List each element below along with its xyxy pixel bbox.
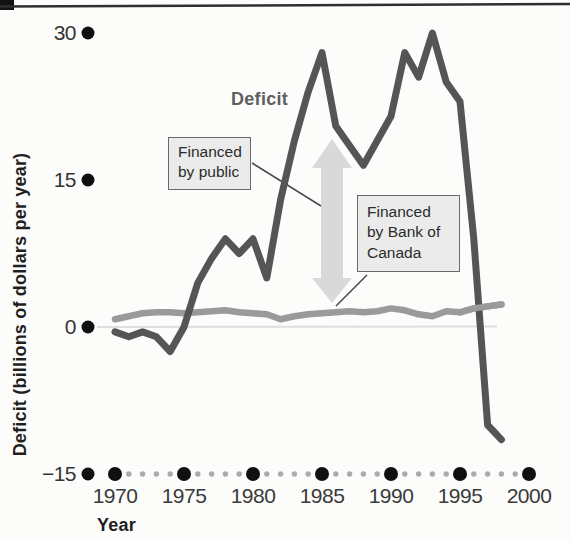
x-axis-minor-year-dot	[416, 471, 421, 476]
x-axis-minor-year-dot	[126, 471, 131, 476]
x-tick-label-1970: 1970	[83, 484, 147, 508]
public-financing-gap-arrow	[312, 139, 352, 303]
y-axis-title: Deficit (billions of dollars per year)	[10, 125, 31, 485]
x-axis-minor-year-dot	[347, 471, 352, 476]
y-tick-label-0: 0	[24, 313, 76, 340]
y-axis-tick-dot	[82, 468, 95, 481]
financed-by-boc-line1: Financed	[367, 202, 459, 222]
x-axis-minor-year-dot	[209, 471, 214, 476]
x-axis-minor-year-dot	[471, 471, 476, 476]
y-tick-label-neg15: −15	[24, 460, 76, 487]
y-tick-label-15: 15	[24, 166, 76, 193]
financed-by-public-line1: Financed	[178, 142, 250, 162]
x-axis-minor-year-dot	[306, 471, 311, 476]
x-axis-minor-year-dot	[485, 471, 490, 476]
x-axis-minor-year-dot	[237, 471, 242, 476]
zero-gridline	[97, 327, 497, 328]
chart-canvas	[0, 0, 570, 542]
x-axis-minor-year-dot	[278, 471, 283, 476]
financed-by-public-line2: by public	[178, 162, 250, 182]
y-tick-label-30: 30	[24, 19, 76, 46]
financed-by-public-callout: Financed by public	[168, 137, 251, 190]
x-tick-label-1995: 1995	[428, 484, 492, 508]
x-axis-minor-year-dot	[375, 471, 380, 476]
deficit-financing-figure: 30 15 0 −15 1970 1975 1980 1985 1990 199…	[0, 0, 570, 542]
x-axis-year-dot	[522, 467, 536, 481]
x-axis-title: Year	[97, 515, 136, 536]
y-axis-tick-dot	[82, 174, 95, 187]
top-rule-line	[0, 4, 570, 7]
financed-by-boc-line3: Canada	[367, 243, 459, 263]
x-axis-minor-year-dot	[513, 471, 518, 476]
x-tick-label-1980: 1980	[221, 484, 285, 508]
page-corner-block	[0, 0, 14, 10]
x-axis-year-dot	[453, 467, 467, 481]
x-axis-minor-year-dot	[361, 471, 366, 476]
financed-by-bank-of-canada-callout: Financed by Bank of Canada	[357, 195, 460, 272]
x-axis-minor-year-dot	[168, 471, 173, 476]
x-axis-year-dot	[177, 467, 191, 481]
x-axis-minor-year-dot	[264, 471, 269, 476]
deficit-curve-label: Deficit	[231, 89, 288, 110]
y-axis-tick-dot	[82, 27, 95, 40]
x-tick-label-1985: 1985	[290, 484, 354, 508]
y-axis-tick-dot	[82, 321, 95, 334]
x-axis-minor-year-dot	[223, 471, 228, 476]
x-axis-year-dot	[108, 467, 122, 481]
x-axis-minor-year-dot	[499, 471, 504, 476]
x-tick-label-1990: 1990	[359, 484, 423, 508]
x-axis-minor-year-dot	[444, 471, 449, 476]
x-axis-year-dot	[315, 467, 329, 481]
x-axis-minor-year-dot	[154, 471, 159, 476]
x-axis-year-dot	[246, 467, 260, 481]
x-axis-minor-year-dot	[402, 471, 407, 476]
x-axis-minor-year-dot	[333, 471, 338, 476]
x-axis-minor-year-dot	[140, 471, 145, 476]
financed-by-boc-line2: by Bank of	[367, 222, 459, 242]
x-axis-minor-year-dot	[195, 471, 200, 476]
x-axis-minor-year-dot	[292, 471, 297, 476]
x-axis-minor-year-dot	[430, 471, 435, 476]
x-tick-label-1975: 1975	[152, 484, 216, 508]
x-axis-year-dot	[384, 467, 398, 481]
bank-of-canada-line	[115, 305, 501, 320]
x-tick-label-2000: 2000	[497, 484, 561, 508]
